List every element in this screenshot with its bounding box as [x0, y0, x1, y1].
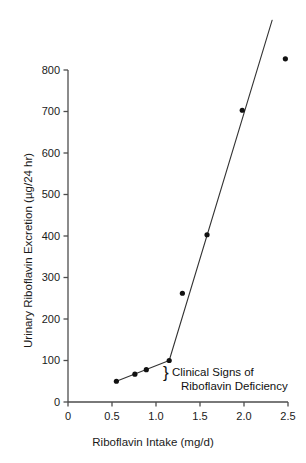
data-point: [144, 367, 149, 372]
brace-icon: }: [163, 364, 169, 381]
y-axis-tick-label: 0: [16, 397, 60, 408]
data-point: [132, 372, 137, 377]
data-point: [283, 56, 288, 61]
x-axis-tick-label: 2.0: [224, 411, 264, 422]
x-axis-tick-label: 0: [48, 411, 88, 422]
data-point: [240, 108, 245, 113]
riboflavin-excretion-chart: 0100200300400500600700800 00.51.01.52.02…: [0, 0, 306, 463]
data-point: [204, 232, 209, 237]
data-series: [114, 20, 288, 384]
x-axis-title: Riboflavin Intake (mg/d): [0, 436, 306, 449]
y-axis-tick-label: 100: [16, 355, 60, 366]
annotation-line-1: Clinical Signs of: [172, 365, 254, 379]
x-axis-tick-label: 2.5: [268, 411, 306, 422]
y-axis-tick-label: 700: [16, 106, 60, 117]
fit-line-repletion-segment: [169, 20, 272, 360]
data-point: [114, 379, 119, 384]
axes: [64, 70, 289, 407]
x-axis-tick-label: 0.5: [92, 411, 132, 422]
fit-line-deficiency-segment: [116, 361, 169, 382]
y-axis-title: Urinary Riboflavin Excretion (µg/24 hr): [22, 153, 35, 348]
y-axis-tick-label: 800: [16, 65, 60, 76]
annotation-line-2: Riboflavin Deficiency: [181, 379, 288, 393]
x-axis-tick-label: 1.5: [180, 411, 220, 422]
x-axis-tick-label: 1.0: [136, 411, 176, 422]
data-point: [180, 291, 185, 296]
